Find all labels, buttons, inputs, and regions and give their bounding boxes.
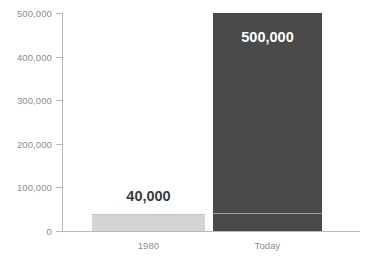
x-axis-label-today: Today bbox=[213, 240, 322, 251]
y-axis-tick-label: 500,000 bbox=[17, 8, 52, 19]
bar-today bbox=[213, 13, 322, 231]
y-axis-tick bbox=[56, 57, 63, 58]
data-label-1980: 40,000 bbox=[92, 188, 205, 204]
x-axis-line bbox=[62, 231, 360, 232]
plot-area: 40,000 500,000 bbox=[0, 0, 377, 265]
y-axis-tick bbox=[56, 231, 63, 232]
y-axis-tick bbox=[56, 13, 63, 14]
y-axis-tick-label: 400,000 bbox=[17, 51, 52, 62]
bar-chart: 0100,000200,000300,000400,000500,000 40,… bbox=[0, 0, 377, 265]
y-axis-tick-label: 300,000 bbox=[17, 95, 52, 106]
y-axis-tick-label: 200,000 bbox=[17, 138, 52, 149]
y-axis-tick-label: 0 bbox=[47, 226, 52, 237]
data-label-today: 500,000 bbox=[213, 29, 322, 45]
y-axis-tick bbox=[56, 187, 63, 188]
y-axis-tick bbox=[56, 144, 63, 145]
reference-line-40000-icon bbox=[213, 213, 322, 214]
y-axis-tick bbox=[56, 100, 63, 101]
y-axis-tick-label: 100,000 bbox=[17, 182, 52, 193]
x-axis-label-1980: 1980 bbox=[92, 240, 205, 251]
y-axis-line bbox=[62, 13, 63, 231]
bar-1980 bbox=[92, 214, 205, 231]
